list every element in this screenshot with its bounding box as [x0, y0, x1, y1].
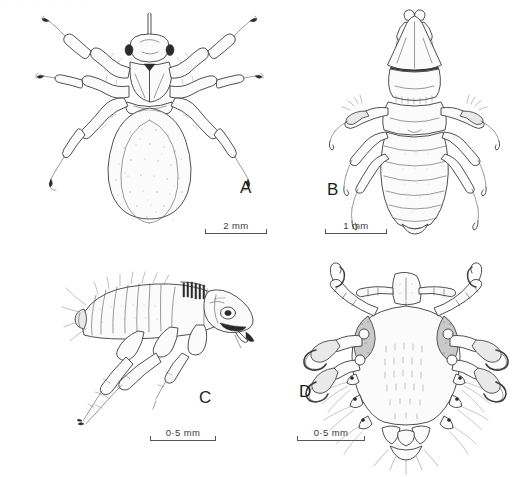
scale-bar-c-label: 0·5 mm	[150, 427, 216, 438]
scale-bar-b-label: 1 mm	[325, 220, 387, 231]
scale-bar-d-line	[297, 440, 365, 441]
scale-bar-d-tick-left	[297, 436, 298, 441]
scale-bar-c-line	[150, 440, 216, 441]
scale-bar-b-line	[325, 233, 387, 234]
scale-bar-c: 0·5 mm	[150, 427, 216, 441]
panel-letter-c: C	[199, 388, 212, 408]
scale-bar-c-tick-right	[215, 436, 216, 441]
scale-bar-b: 1 mm	[325, 220, 387, 234]
panel-b-illustration	[310, 8, 520, 233]
scale-bar-a: 2 mm	[205, 220, 267, 234]
panel-d-artwork	[304, 263, 508, 474]
panel-letter-a: A	[240, 178, 252, 198]
panel-b-artwork	[329, 10, 499, 234]
panel-a-artwork	[36, 13, 264, 224]
scale-bar-c-tick-left	[150, 436, 151, 441]
scale-bar-a-label: 2 mm	[205, 220, 267, 231]
scale-bar-d-tick-right	[364, 436, 365, 441]
scale-bar-d-label: 0·5 mm	[297, 427, 365, 438]
scale-bar-b-tick-right	[386, 229, 387, 234]
scale-bar-a-tick-right	[266, 229, 267, 234]
panel-c-artwork	[62, 272, 254, 425]
scale-bar-a-line	[205, 233, 267, 234]
panel-c-illustration	[10, 265, 260, 425]
panel-letter-d: D	[299, 382, 312, 402]
scale-bar-b-tick-left	[325, 229, 326, 234]
scale-bar-d: 0·5 mm	[297, 427, 365, 441]
panel-letter-b: B	[327, 180, 339, 200]
figure-plate: . . . . . .	[0, 0, 532, 477]
panel-a-illustration	[30, 8, 270, 228]
scale-bar-a-tick-left	[205, 229, 206, 234]
